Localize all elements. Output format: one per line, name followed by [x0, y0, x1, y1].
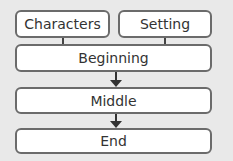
beginning-label: Beginning — [78, 50, 148, 66]
setting-label: Setting — [140, 16, 190, 32]
characters-box: Characters — [15, 10, 110, 38]
end-box: End — [15, 128, 212, 154]
characters-label: Characters — [24, 16, 100, 32]
end-label: End — [100, 133, 127, 149]
setting-box: Setting — [118, 10, 212, 38]
arrow-down-icon — [115, 72, 117, 81]
arrow-down-icon — [115, 114, 117, 122]
middle-label: Middle — [90, 93, 136, 109]
beginning-box: Beginning — [15, 44, 212, 72]
middle-box: Middle — [15, 87, 212, 114]
